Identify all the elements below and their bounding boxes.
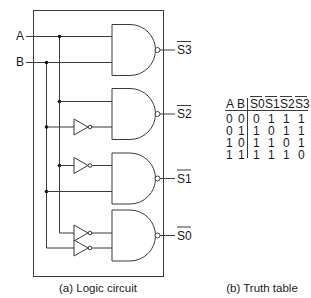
tt-header-s0: S0: [250, 97, 265, 111]
output-s2: S2: [177, 106, 192, 122]
nand-gate-s0: [112, 210, 175, 261]
svg-text:1: 1: [238, 148, 245, 162]
output-label-s1: S1: [177, 172, 192, 186]
junction-dot: [45, 61, 49, 65]
inversion-bubble-icon: [155, 112, 160, 117]
output-s3: S3: [177, 42, 192, 58]
svg-text:1: 1: [268, 148, 275, 162]
inverter-a-s0: [74, 225, 92, 241]
output-s0: S0: [177, 227, 192, 243]
svg-text:1: 1: [283, 148, 290, 162]
output-label-s3: S3: [177, 43, 192, 57]
tt-header-s3: S3: [295, 97, 310, 111]
diagram-canvas: A B: [0, 0, 311, 298]
output-label-s2: S2: [177, 107, 192, 121]
tt-header-s2: S2: [280, 97, 295, 111]
nand-gate-s3: [112, 25, 175, 76]
inverter-a-s1: [74, 158, 92, 174]
nand-gate-s1: [112, 153, 175, 204]
output-s1: S1: [177, 170, 192, 186]
input-label-b: B: [16, 55, 24, 69]
truth-table: A B S0 S1 S2 S3 0 0 0 1 1 1 0 1 1 0 1 1 …: [225, 97, 310, 163]
tt-header-a: A: [226, 97, 234, 111]
table-row: 1 1 1 1 1 0: [226, 148, 305, 162]
inverter-b-s0: [74, 240, 92, 256]
input-label-a: A: [16, 29, 24, 43]
caption-logic-circuit: (a) Logic circuit: [59, 282, 138, 294]
tt-header-s1: S1: [265, 97, 280, 111]
svg-text:1: 1: [226, 148, 233, 162]
svg-text:0: 0: [298, 148, 305, 162]
inversion-bubble-icon: [155, 176, 160, 181]
svg-text:1: 1: [253, 148, 260, 162]
tt-header-b: B: [237, 97, 245, 111]
inversion-bubble-icon: [155, 48, 160, 53]
nand-gate-s2: [112, 89, 175, 140]
inverter-b-s2: [74, 119, 92, 135]
caption-truth-table: (b) Truth table: [226, 282, 298, 294]
junction-dot: [58, 35, 62, 39]
inversion-bubble-icon: [155, 233, 160, 238]
output-label-s0: S0: [177, 229, 192, 243]
